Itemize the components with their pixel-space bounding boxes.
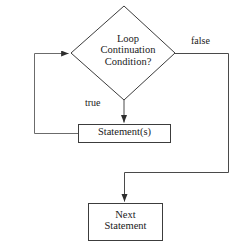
- next-statement-label-line-2: Statement: [88, 220, 163, 231]
- next-statement-label: Next Statement: [88, 209, 163, 232]
- decision-label: Loop Continuation Condition?: [86, 33, 170, 67]
- false-branch-label: false: [191, 36, 210, 47]
- flowchart-canvas: Loop Continuation Condition? Statement(s…: [0, 0, 234, 247]
- decision-label-line-3: Condition?: [86, 56, 170, 67]
- loop-back-edge: [35, 54, 79, 134]
- decision-label-line-2: Continuation: [86, 44, 170, 55]
- true-branch-label: true: [85, 98, 101, 109]
- next-statement-label-line-1: Next: [88, 209, 163, 220]
- decision-label-line-1: Loop: [86, 33, 170, 44]
- statement-label-line-1: Statement(s): [78, 126, 171, 137]
- statement-label: Statement(s): [78, 126, 171, 137]
